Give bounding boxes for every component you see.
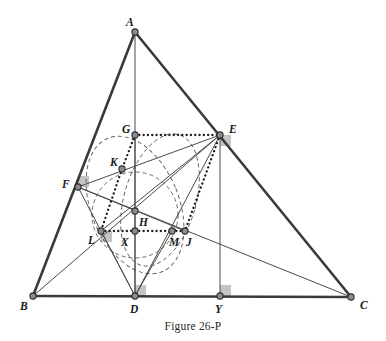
point-label-j: J [185, 236, 193, 248]
vertex-nodes-group [30, 29, 354, 300]
segment-FE [78, 135, 220, 187]
point-label-e: E [228, 123, 237, 135]
point-label-f: F [61, 178, 70, 190]
side-AC [135, 32, 351, 297]
vertex-node-c [348, 294, 354, 300]
point-label-a: A [125, 16, 134, 28]
point-label-h: H [138, 216, 149, 228]
figure-caption: Figure 26-P [0, 320, 386, 332]
point-label-d: D [129, 303, 139, 315]
segment-DM [135, 231, 172, 296]
vertex-node-y [217, 293, 223, 299]
segment-FJ [78, 187, 185, 231]
dashed-curves-group [67, 122, 213, 288]
vertex-node-e [217, 132, 223, 138]
point-label-y: Y [215, 303, 223, 315]
thin-segments-group [33, 32, 351, 297]
vertex-node-d [132, 293, 138, 299]
vertex-node-m [169, 228, 175, 234]
vertex-node-b [30, 293, 36, 299]
vertex-node-n [132, 208, 138, 214]
point-label-g: G [122, 123, 131, 135]
vertex-node-l [98, 228, 104, 234]
point-label-k: K [109, 156, 119, 168]
side-BC [33, 296, 351, 297]
vertex-node-f [75, 184, 81, 190]
vertex-node-g [132, 132, 138, 138]
vertex-node-h [132, 228, 138, 234]
point-label-b: B [19, 300, 28, 312]
vertex-node-a [132, 29, 138, 35]
segment-DL [101, 231, 135, 296]
triangle-outline-group [33, 32, 351, 297]
point-label-c: C [360, 299, 368, 311]
dotted-GK [122, 135, 135, 169]
point-label-x: X [120, 236, 129, 248]
vertex-labels-group: ABCDEFGHJKLMXY [19, 16, 368, 315]
figure-container: ABCDEFGHJKLMXY Figure 26-P [0, 0, 386, 341]
vertex-node-k [119, 166, 125, 172]
point-label-m: M [168, 236, 180, 248]
geometry-figure: ABCDEFGHJKLMXY [0, 0, 386, 341]
vertex-node-j [182, 228, 188, 234]
side-AB [33, 32, 135, 296]
point-label-l: L [87, 234, 95, 246]
